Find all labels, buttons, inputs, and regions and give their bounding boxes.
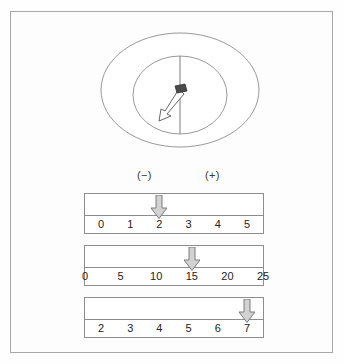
scale-1-tick-3: 3 [186,218,192,230]
scale-bar-1-arrow-lane [85,194,263,216]
scale-3-tick-1: 3 [127,322,133,334]
figure-frame: (−) (+) 012345 0510152025 234567 [10,11,333,353]
scale-2-tick-5: 25 [257,270,269,282]
scale-3-tick-2: 4 [156,322,162,334]
polarity-positive-label: (+) [205,169,220,181]
scale-2-tick-0: 0 [82,270,88,282]
scale-2-tick-3: 15 [186,270,198,282]
scale-bar-3: 234567 [84,297,264,338]
scale-1-tick-4: 4 [215,218,221,230]
polarity-negative-label: (−) [137,169,152,181]
scale-1-tick-5: 5 [244,218,250,230]
scale-bar-2: 0510152025 [84,245,264,286]
scale-3-tick-3: 5 [186,322,192,334]
scale-bar-2-ticks-lane: 0510152025 [85,268,263,286]
scale-2-tick-2: 10 [150,270,162,282]
scale-2-tick-4: 20 [221,270,233,282]
scale-2-tick-1: 5 [118,270,124,282]
scale-bar-3-arrow-lane [85,298,263,320]
scale-bar-1-ticks-lane: 012345 [85,216,263,234]
scale-bar-3-ticks-lane: 234567 [85,320,263,338]
scale-3-tick-5: 7 [244,322,250,334]
scale-1-tick-2: 2 [156,218,162,230]
scale-1-tick-0: 0 [98,218,104,230]
scale-bar-2-arrow-lane [85,246,263,268]
scale-3-tick-0: 2 [98,322,104,334]
galvanometer-dial [97,26,263,154]
scale-3-tick-4: 6 [215,322,221,334]
scale-1-tick-1: 1 [127,218,133,230]
dial-pivot [175,84,187,93]
scale-bar-1: 012345 [84,193,264,234]
